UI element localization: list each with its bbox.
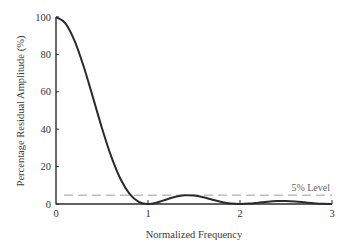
reference-line-label: 5% Level: [291, 182, 330, 193]
x-tick-label: 2: [237, 208, 242, 219]
y-axis-title: Percentage Residual Amplitude (%): [15, 35, 27, 186]
y-tick-label: 80: [41, 49, 52, 60]
x-axis-title: Normalized Frequency: [146, 229, 243, 240]
y-tick-label: 100: [35, 12, 51, 23]
data-series-curve: [56, 17, 332, 204]
y-tick-label: 0: [46, 199, 51, 210]
x-axis-ticks: 0123: [53, 200, 334, 219]
y-tick-label: 20: [41, 161, 52, 172]
x-tick-label: 3: [329, 208, 334, 219]
x-tick-label: 1: [145, 208, 150, 219]
y-tick-label: 60: [41, 86, 52, 97]
curve-path: [56, 17, 332, 204]
residual-amplitude-chart: 020406080100 0123 Normalized Frequency P…: [0, 0, 352, 247]
x-tick-label: 0: [53, 208, 58, 219]
y-tick-label: 40: [41, 124, 52, 135]
